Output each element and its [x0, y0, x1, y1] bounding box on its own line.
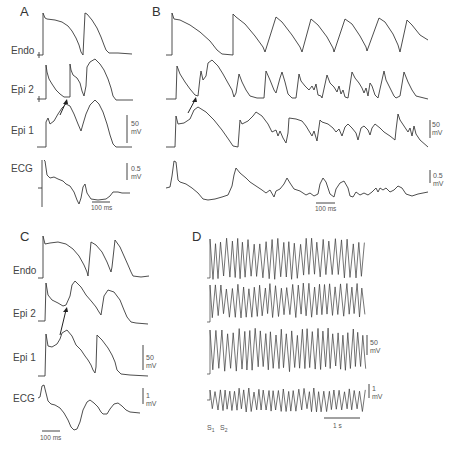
- trace-d-1: [207, 238, 364, 279]
- panel-d-traces: [207, 238, 369, 418]
- trace-d-2: [207, 283, 365, 322]
- trace-d-3: [207, 328, 366, 374]
- trace-b-ecg: [166, 161, 428, 200]
- trace-c-ecg: [38, 385, 140, 430]
- trace-b-epi2: [166, 60, 428, 99]
- trace-b-endo: [166, 13, 428, 55]
- panel-c-traces: [38, 236, 149, 431]
- trace-a-epi1: [37, 100, 132, 147]
- trace-c-epi2: [38, 281, 148, 324]
- trace-b-epi1: [166, 107, 428, 147]
- trace-d-ecg: [207, 388, 365, 412]
- trace-c-endo: [38, 236, 149, 278]
- trace-c-epi1: [38, 330, 148, 376]
- trace-a-ecg: [42, 160, 130, 207]
- traces-canvas: [0, 0, 451, 449]
- panel-a-traces: [37, 13, 133, 207]
- trace-a-epi2: [37, 59, 133, 100]
- trace-a-endo: [37, 13, 132, 55]
- panel-b-traces: [166, 13, 430, 203]
